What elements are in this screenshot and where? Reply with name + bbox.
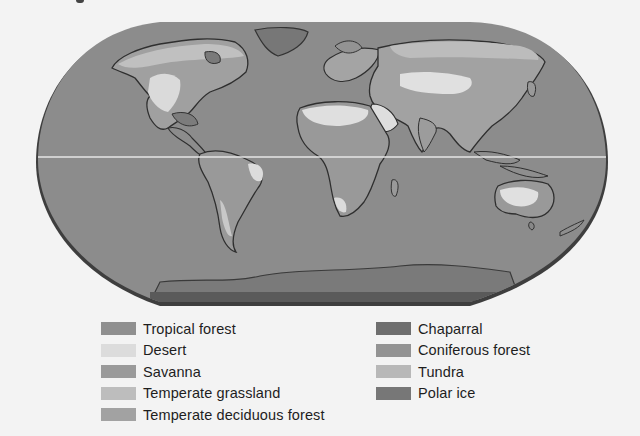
legend-item-tundra: Tundra <box>376 361 530 383</box>
legend-label: Temperate grassland <box>143 385 280 401</box>
swatch-polar-ice <box>376 387 411 400</box>
swatch-temperate-deciduous-forest <box>101 408 136 421</box>
legend-item-savanna: Savanna <box>101 361 325 383</box>
legend-item-chaparral: Chaparral <box>376 318 530 340</box>
swatch-coniferous-forest <box>376 344 411 357</box>
legend-label: Savanna <box>143 364 201 380</box>
swatch-desert <box>101 344 136 357</box>
swatch-savanna <box>101 365 136 378</box>
swatch-tropical-forest <box>101 322 136 335</box>
legend-label: Tropical forest <box>143 321 236 337</box>
swatch-tundra <box>376 365 411 378</box>
legend-left-column: Tropical forest Desert Savanna Temperate… <box>101 318 325 426</box>
legend-item-coniferous-forest: Coniferous forest <box>376 340 530 362</box>
map-svg <box>0 0 640 310</box>
legend: Tropical forest Desert Savanna Temperate… <box>101 318 581 430</box>
legend-item-polar-ice: Polar ice <box>376 383 530 405</box>
legend-right-column: Chaparral Coniferous forest Tundra Polar… <box>376 318 530 404</box>
legend-label: Desert <box>143 342 186 358</box>
legend-label: Coniferous forest <box>418 342 530 358</box>
legend-label: Tundra <box>418 364 464 380</box>
legend-item-temperate-deciduous-forest: Temperate deciduous forest <box>101 404 325 426</box>
legend-item-temperate-grassland: Temperate grassland <box>101 383 325 405</box>
world-biome-map <box>0 0 640 310</box>
legend-label: Chaparral <box>418 321 483 337</box>
legend-label: Polar ice <box>418 385 475 401</box>
swatch-chaparral <box>376 322 411 335</box>
legend-item-desert: Desert <box>101 340 325 362</box>
legend-item-tropical-forest: Tropical forest <box>101 318 325 340</box>
legend-label: Temperate deciduous forest <box>143 407 325 423</box>
swatch-temperate-grassland <box>101 387 136 400</box>
